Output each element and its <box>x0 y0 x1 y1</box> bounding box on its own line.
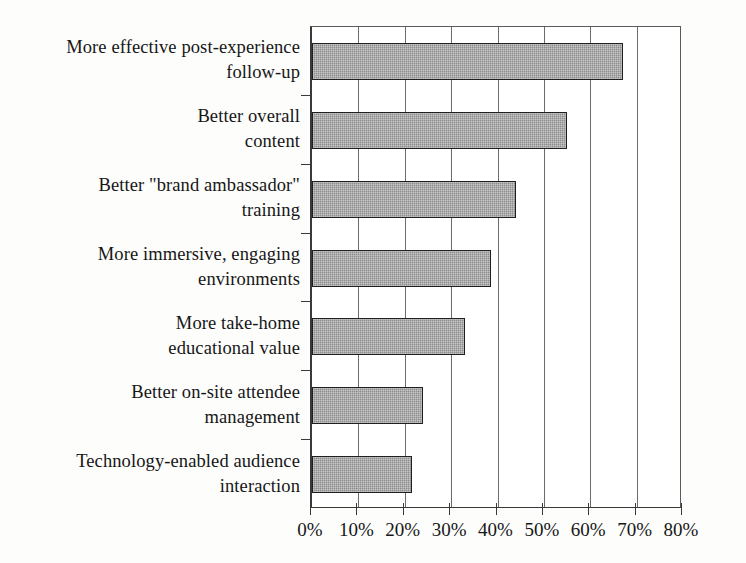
x-axis-tick-labels: 0%10%20%30%40%50%60%70%80% <box>0 0 746 563</box>
x-axis-tick-label: 80% <box>651 518 711 542</box>
chart-page: More effective post-experiencefollow-upB… <box>0 0 746 563</box>
